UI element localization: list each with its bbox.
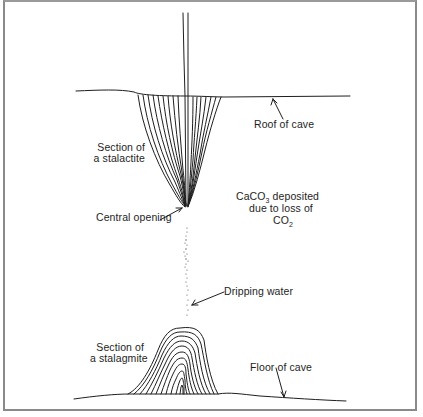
label-stalagmite-line2: a stalagmite (90, 352, 144, 364)
label-due-to-loss: due to loss of (249, 202, 313, 214)
co2-text: CO (273, 214, 289, 226)
co2-subscript: 2 (289, 221, 293, 228)
label-central-opening: Central opening (96, 211, 172, 223)
label-roof-of-cave: Roof of cave (254, 118, 314, 130)
caco3-text: CaCO (236, 190, 266, 202)
label-caco3-deposited: CaCO3 deposited (236, 190, 319, 202)
label-dripping-water: Dripping water (224, 285, 293, 297)
deposited-text: deposited (270, 190, 319, 202)
label-stalactite-line2: a stalactite (90, 152, 145, 164)
label-co2: CO2 (273, 214, 293, 226)
stalactite-section (138, 95, 221, 207)
cave-diagram (0, 0, 423, 417)
dripping-water-dots (183, 227, 188, 315)
label-floor-of-cave: Floor of cave (250, 361, 312, 373)
roof-of-cave-line (76, 90, 350, 97)
